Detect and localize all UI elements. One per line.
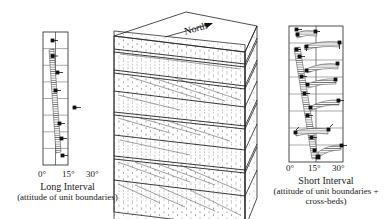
- short-interval-tick-30: 30°: [332, 163, 345, 173]
- long-interval-tick-15: 15°: [62, 169, 75, 179]
- long-interval-title: Long Interval: [5, 181, 130, 192]
- long-interval-tick-30: 30°: [86, 169, 99, 179]
- short-interval-tick-15: 15°: [308, 163, 321, 173]
- long-interval-caption: Long Interval (attitude of unit boundari…: [5, 181, 130, 202]
- short-interval-tick-0: 0°: [286, 163, 294, 173]
- short-interval-subtitle-line2: cross-beds): [262, 196, 390, 206]
- long-interval-tick-0: 0°: [38, 169, 46, 179]
- stratigraphy-figure: North 0° 15° 30° Long Interval (attitude…: [0, 0, 390, 219]
- short-interval-caption: Short Interval (attitude of unit boundar…: [262, 175, 390, 206]
- long-interval-subtitle: (attitude of unit boundaries): [17, 192, 118, 202]
- short-interval-title: Short Interval: [262, 175, 390, 186]
- short-interval-subtitle-line1: (attitude of unit boundaries +: [262, 186, 390, 196]
- short-interval-chart: [289, 26, 347, 162]
- stratigraphic-block-diagram: [114, 12, 257, 219]
- long-interval-chart: [43, 32, 81, 165]
